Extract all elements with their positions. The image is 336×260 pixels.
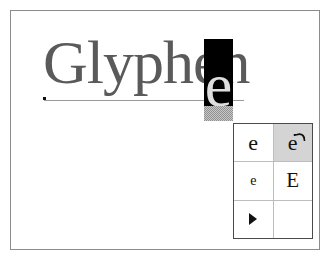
origin-point-marker <box>43 97 46 100</box>
headword-area: Glyphen <box>31 23 291 113</box>
glyph-label: e <box>250 174 256 188</box>
screenshot-canvas: Glyphen e e e <box>0 0 336 260</box>
glyph-cell-plain-e-small[interactable]: e <box>234 162 274 199</box>
glyph-variant-table[interactable]: e e e E <box>233 123 313 239</box>
glyph-cell-plain-e-large[interactable]: e <box>234 124 274 161</box>
table-row: e E <box>234 162 312 200</box>
table-row <box>234 201 312 238</box>
glyph-cell-swash-e-selected[interactable]: e <box>274 124 313 161</box>
glyph-cell-expand-arrow[interactable] <box>234 201 274 238</box>
glyph-color-swatch[interactable] <box>204 106 233 121</box>
swash-glyph-wrapper: e <box>288 132 298 154</box>
glyph-label: e <box>248 132 258 154</box>
table-row: e e <box>234 124 312 162</box>
glyph-selection-highlight[interactable] <box>204 39 233 106</box>
swash-stroke-icon <box>293 132 306 143</box>
glyph-selection-column[interactable]: e <box>204 39 233 121</box>
page-frame: Glyphen e e e <box>10 10 320 250</box>
glyph-cell-empty[interactable] <box>274 201 313 238</box>
glyph-cell-capital-e[interactable]: E <box>274 162 313 199</box>
glyph-label: E <box>286 170 299 191</box>
play-triangle-icon[interactable] <box>249 213 257 225</box>
